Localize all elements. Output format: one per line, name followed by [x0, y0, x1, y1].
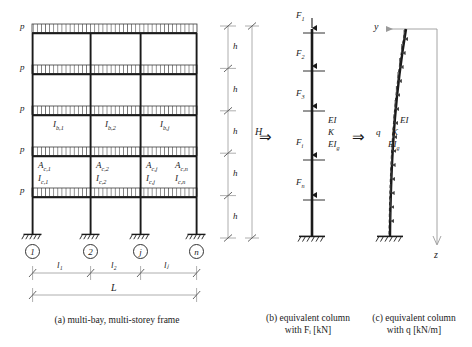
- frame-load-label-5: p: [20, 186, 25, 195]
- frame-load-label-1: p: [20, 22, 25, 31]
- node-number-1: 1: [25, 244, 40, 259]
- bay-width-label-1: l₁: [57, 261, 63, 270]
- equivalent-column-b-support: [298, 236, 325, 241]
- caption-panel-b-line1: (b) equivalent column: [266, 313, 350, 323]
- column-area-label-4: Ac,n: [175, 161, 188, 172]
- force-label-n: Fn: [296, 178, 305, 189]
- column-inertia-label-1: Ic,1: [38, 174, 48, 185]
- node-number-4: n: [189, 244, 204, 259]
- total-span-label: L: [111, 283, 117, 293]
- transform-arrow-2: ⇒: [352, 128, 365, 146]
- property-label-b-eig: EIg: [328, 140, 340, 151]
- point-force-arrows: [303, 18, 325, 200]
- node-number-2: 2: [83, 244, 98, 259]
- caption-panel-b: (b) equivalent column with Fᵢ [kN]: [248, 313, 368, 337]
- force-label-2: F2: [296, 49, 305, 60]
- property-label-c-ei: EI: [400, 116, 409, 127]
- bay-width-label-3: lⱼ: [164, 261, 169, 270]
- property-label-c-k: K: [392, 128, 398, 139]
- column-inertia-label-4: Ic,n: [175, 174, 185, 185]
- force-label-3: F3: [296, 89, 305, 100]
- caption-panel-c-line2: with q [kN/m]: [387, 325, 441, 335]
- property-label-b-ei: EI: [328, 116, 337, 127]
- beam-inertia-label-2: Ib,2: [105, 120, 116, 131]
- storey-height-label-5: h: [233, 212, 238, 221]
- node-number-3: j: [133, 244, 148, 259]
- axis-label-z: z: [434, 250, 438, 260]
- frame-load-label-2: p: [20, 63, 25, 72]
- frame-load-label-3: p: [20, 104, 25, 113]
- equivalent-column-c-support: [376, 236, 403, 241]
- column-inertia-label-3: Ic,j: [146, 174, 155, 185]
- frame-supports: [22, 234, 206, 239]
- column-area-label-2: Ac,2: [96, 161, 109, 172]
- caption-panel-c-line1: (c) equivalent column: [372, 313, 455, 323]
- storey-height-label-2: h: [233, 85, 238, 94]
- frame-beams: [32, 33, 197, 197]
- frame-load-label-4: p: [20, 145, 25, 154]
- column-area-label-3: Ac,j: [146, 161, 158, 172]
- storey-height-label-4: h: [233, 169, 238, 178]
- force-label-1: F1: [296, 11, 305, 22]
- caption-panel-a: (a) multi-bay, multi-storey frame: [32, 315, 202, 327]
- distributed-load-label: q: [376, 128, 381, 137]
- transform-arrow-1: ⇒: [259, 128, 272, 146]
- frame-height-dimensions: [220, 23, 259, 242]
- property-label-c-eig: EIg: [388, 140, 400, 151]
- frame-distributed-loads: [32, 24, 197, 197]
- property-label-b-k: K: [328, 128, 334, 139]
- column-area-label-1: Ac,1: [38, 161, 51, 172]
- beam-inertia-label-3: Ib,j: [160, 120, 169, 131]
- equivalent-column-distributed-diagram: [376, 29, 441, 245]
- force-label-i: Fi: [296, 138, 303, 149]
- figure-root: p p p p p Ib,1 Ib,2 Ib,j Ac,1 Ic,1 Ac,2 …: [0, 0, 472, 347]
- bay-width-label-2: l₂: [111, 261, 117, 270]
- axis-label-y: y: [374, 22, 378, 32]
- storey-height-label-3: h: [233, 127, 238, 136]
- beam-inertia-label-1: Ib,1: [53, 120, 64, 131]
- caption-panel-c: (c) equivalent column with q [kN/m]: [356, 313, 472, 337]
- caption-panel-b-line2: with Fᵢ [kN]: [285, 325, 331, 335]
- storey-height-label-1: h: [233, 42, 238, 51]
- frame-columns: [33, 33, 197, 234]
- column-inertia-label-2: Ic,2: [96, 174, 106, 185]
